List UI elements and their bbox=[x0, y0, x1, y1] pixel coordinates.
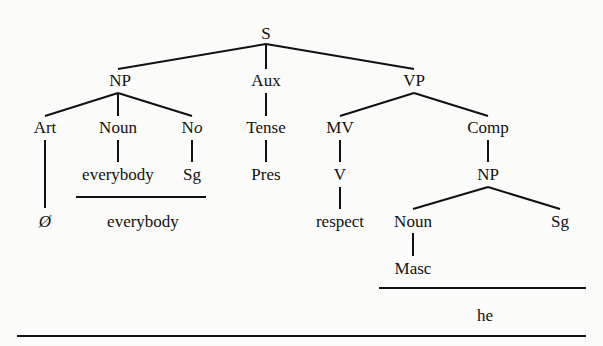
node-everybody: everybody bbox=[82, 165, 154, 184]
edge-np-noun2 bbox=[413, 187, 488, 209]
node-noun-comp: Noun bbox=[394, 212, 432, 231]
node-no: No bbox=[182, 118, 203, 137]
edge-s-vp bbox=[266, 44, 414, 69]
node-np-comp: NP bbox=[477, 165, 499, 184]
edge-np-art bbox=[45, 93, 118, 116]
node-art: Art bbox=[34, 118, 57, 137]
node-noun: Noun bbox=[99, 118, 137, 137]
node-sg: Sg bbox=[183, 165, 201, 184]
node-tense: Tense bbox=[246, 118, 285, 137]
node-he: he bbox=[477, 306, 493, 325]
syntax-tree-diagram: S NP Aux VP Art Noun No Tense MV Comp ev… bbox=[0, 0, 603, 346]
node-null-article: Ø bbox=[38, 212, 52, 231]
node-masc: Masc bbox=[395, 259, 432, 278]
node-aux: Aux bbox=[251, 71, 281, 90]
node-vp: VP bbox=[403, 71, 425, 90]
edge-np-no bbox=[118, 93, 192, 116]
edge-np-sg2 bbox=[488, 187, 560, 209]
node-sg-comp: Sg bbox=[551, 212, 569, 231]
node-pres: Pres bbox=[251, 165, 280, 184]
node-s: S bbox=[261, 24, 270, 43]
edge-s-np bbox=[118, 44, 266, 69]
node-mv: MV bbox=[326, 118, 354, 137]
node-np: NP bbox=[109, 71, 131, 90]
node-v: V bbox=[334, 165, 347, 184]
edge-vp-mv bbox=[340, 93, 414, 116]
node-respect: respect bbox=[316, 212, 364, 231]
edge-vp-comp bbox=[414, 93, 488, 116]
node-everybody-surface: everybody bbox=[107, 212, 179, 231]
node-comp: Comp bbox=[467, 118, 509, 137]
